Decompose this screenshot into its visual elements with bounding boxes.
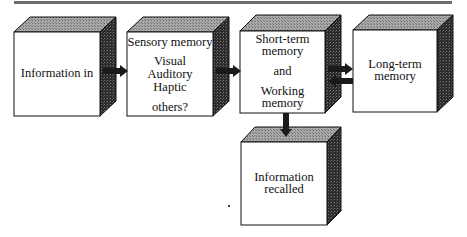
node-line: and [240, 65, 325, 78]
node-line: memory [240, 45, 325, 58]
arrow-right-icon [216, 65, 242, 77]
node-line: others? [127, 101, 213, 114]
arrow-right-icon [103, 65, 129, 77]
arrow-right-icon [328, 63, 354, 75]
top-rule [14, 1, 452, 4]
arrow-left-icon [328, 75, 354, 87]
node-line: memory [353, 70, 437, 83]
node-line: memory [240, 97, 325, 110]
arrow-down-icon [280, 113, 292, 137]
stray-mark [228, 205, 230, 207]
node-heading: Sensory memory [127, 36, 213, 49]
node-line: Haptic [127, 81, 213, 94]
node-label: Information in [14, 67, 100, 80]
node-line: recalled [241, 183, 327, 196]
